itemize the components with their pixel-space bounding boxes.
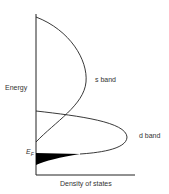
d-band-curve: [36, 111, 127, 154]
s-band-label: s band: [95, 76, 116, 83]
d-band-label: d band: [139, 132, 160, 139]
s-band-curve: [36, 17, 86, 142]
density-of-states-diagram: [0, 0, 169, 194]
occupied-states-fill: [36, 153, 80, 165]
fermi-energy-label: EF: [26, 148, 34, 157]
y-axis-label: Energy: [5, 84, 27, 91]
x-axis-label: Density of states: [60, 180, 112, 187]
fermi-subscript: F: [31, 151, 34, 157]
